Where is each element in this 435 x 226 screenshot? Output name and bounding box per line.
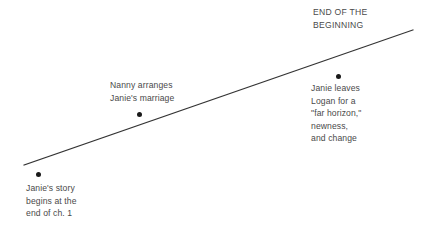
point-marker-nanny-arranges-marriage — [137, 112, 142, 117]
label-line: newness, — [311, 120, 362, 133]
timeline-diagram: END OF THE BEGINNING Janie's story begin… — [0, 0, 435, 226]
point-marker-janie-leaves-logan — [336, 74, 341, 79]
chart-title-line-1: END OF THE — [313, 6, 367, 19]
point-marker-janies-story-begins — [36, 172, 41, 177]
point-label-janie-leaves-logan: Janie leaves Logan for a "far horizon," … — [311, 82, 362, 145]
label-line: and change — [311, 132, 362, 145]
label-line: Logan for a — [311, 95, 362, 108]
chart-title-line-2: BEGINNING — [313, 19, 367, 32]
label-line: Janie's marriage — [110, 92, 174, 105]
point-label-janies-story-begins: Janie's story begins at the end of ch. 1 — [26, 182, 77, 220]
label-line: Janie's story — [26, 182, 77, 195]
label-line: "far horizon," — [311, 107, 362, 120]
label-line: Nanny arranges — [110, 79, 174, 92]
label-line: begins at the — [26, 195, 77, 208]
point-label-nanny-arranges-marriage: Nanny arranges Janie's marriage — [110, 79, 174, 104]
label-line: Janie leaves — [311, 82, 362, 95]
chart-title: END OF THE BEGINNING — [313, 6, 367, 31]
label-line: end of ch. 1 — [26, 207, 77, 220]
